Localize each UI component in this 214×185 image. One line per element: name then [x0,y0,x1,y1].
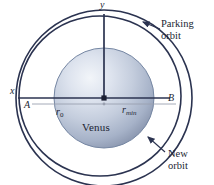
r-min-subscript: min [126,109,137,117]
parking-orbit-callout-line2: orbit [161,30,194,42]
r-zero-subscript: 0 [60,111,64,119]
dimension-line [32,103,176,106]
parking-orbit-callout: Parking orbit [161,18,194,43]
new-orbit-callout-line1: New [168,148,188,160]
new-orbit-callout-line2: orbit [168,160,188,172]
parking-orbit-callout-line1: Parking [161,18,194,30]
y-axis-label: y [100,0,104,11]
new-orbit-leader [148,137,165,152]
new-orbit-callout: New orbit [168,148,188,173]
origin-dot [101,95,106,100]
point-a-label: A [24,100,30,111]
planet-name-label: Venus [82,122,110,134]
venus-orbit-figure: y x A B r0 rmin Venus Parking orbit New … [0,0,214,185]
x-axis-label: x [10,86,14,97]
r-min-label: rmin [122,105,136,116]
r-zero-label: r0 [56,107,63,118]
point-b-label: B [168,93,174,104]
